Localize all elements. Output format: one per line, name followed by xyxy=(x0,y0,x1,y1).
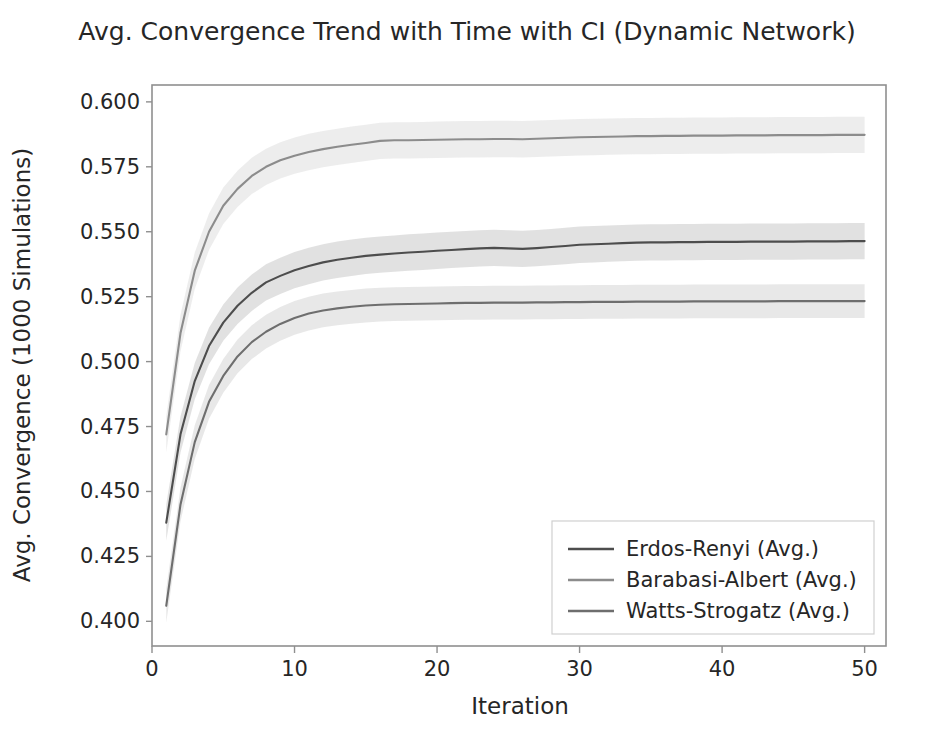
y-axis-ticks: 0.4000.4250.4500.4750.5000.5250.5500.575… xyxy=(80,90,152,633)
y-tick-label: 0.600 xyxy=(80,90,140,114)
y-axis-label: Avg. Convergence (1000 Simulations) xyxy=(9,148,35,582)
legend-label-0[interactable]: Erdos-Renyi (Avg.) xyxy=(626,537,819,561)
ci-band-0 xyxy=(166,223,864,541)
x-tick-label: 20 xyxy=(424,657,451,681)
y-tick-label: 0.450 xyxy=(80,479,140,503)
x-axis-label: Iteration xyxy=(471,693,569,719)
x-tick-label: 0 xyxy=(145,657,158,681)
x-tick-label: 50 xyxy=(851,657,878,681)
y-tick-label: 0.425 xyxy=(80,544,140,568)
chart-legend[interactable]: Erdos-Renyi (Avg.)Barabasi-Albert (Avg.)… xyxy=(552,521,874,634)
convergence-line-chart: Avg. Convergence Trend with Time with CI… xyxy=(0,0,934,739)
y-tick-label: 0.500 xyxy=(80,350,140,374)
y-tick-label: 0.400 xyxy=(80,609,140,633)
x-tick-label: 40 xyxy=(709,657,736,681)
figure-canvas: Avg. Convergence Trend with Time with CI… xyxy=(0,0,934,739)
x-tick-label: 10 xyxy=(281,657,308,681)
x-axis-ticks: 01020304050 xyxy=(145,646,878,681)
legend-label-2[interactable]: Watts-Strogatz (Avg.) xyxy=(626,599,850,623)
y-tick-label: 0.575 xyxy=(80,155,140,179)
legend-label-1[interactable]: Barabasi-Albert (Avg.) xyxy=(626,568,857,592)
x-tick-label: 30 xyxy=(566,657,593,681)
y-tick-label: 0.475 xyxy=(80,415,140,439)
y-tick-label: 0.525 xyxy=(80,285,140,309)
chart-title: Avg. Convergence Trend with Time with CI… xyxy=(78,17,855,46)
y-tick-label: 0.550 xyxy=(80,220,140,244)
